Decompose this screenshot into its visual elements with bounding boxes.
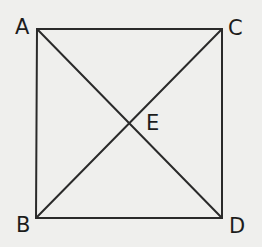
square-diagram: A C B D E — [0, 0, 262, 247]
label-a: A — [15, 15, 30, 39]
label-c: C — [228, 16, 243, 40]
label-b: B — [16, 213, 30, 237]
segment-ba — [36, 29, 37, 218]
label-e: E — [146, 111, 159, 135]
label-d: D — [229, 214, 245, 238]
